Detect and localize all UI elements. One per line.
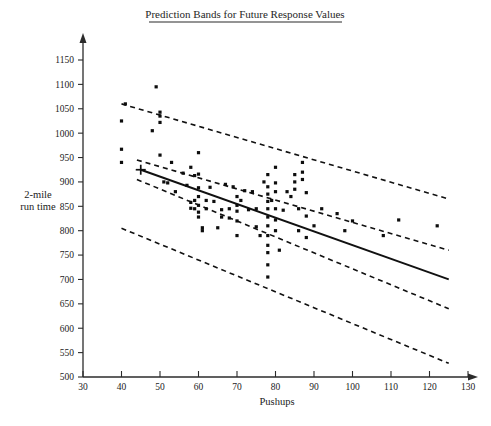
y-axis-title-line2: run time — [20, 201, 56, 212]
y-tick-label: 1050 — [55, 104, 74, 114]
data-point — [232, 185, 235, 188]
data-point — [193, 174, 196, 177]
data-point — [301, 161, 304, 164]
data-point — [305, 236, 308, 239]
lower-prediction-band — [122, 228, 449, 363]
regression-line-group — [136, 165, 449, 280]
data-point — [174, 190, 177, 193]
data-point — [193, 207, 196, 210]
data-point — [320, 207, 323, 210]
x-tick-label: 30 — [78, 382, 88, 392]
data-point — [247, 208, 250, 211]
data-point — [266, 263, 269, 266]
lower-confidence-band — [137, 179, 449, 308]
data-point — [282, 209, 285, 212]
data-point — [289, 195, 292, 198]
data-point — [220, 208, 223, 211]
data-point — [297, 207, 300, 210]
data-point — [201, 229, 204, 232]
data-point — [274, 229, 277, 232]
x-axis-arrowhead — [468, 374, 478, 381]
data-point — [266, 244, 269, 247]
x-tick-label: 60 — [194, 382, 204, 392]
data-point — [166, 181, 169, 184]
data-point — [251, 190, 254, 193]
data-point — [239, 199, 242, 202]
data-point — [158, 114, 161, 117]
x-axis-title: Pushups — [259, 396, 294, 407]
data-point — [397, 218, 400, 221]
data-point — [197, 186, 200, 189]
data-point — [293, 180, 296, 183]
data-point — [259, 234, 262, 237]
data-point — [436, 224, 439, 227]
data-point — [274, 218, 277, 221]
data-point — [235, 195, 238, 198]
data-point — [197, 215, 200, 218]
data-point — [193, 199, 196, 202]
x-tick-label: 40 — [117, 382, 127, 392]
data-point — [124, 102, 127, 105]
data-point — [189, 166, 192, 169]
data-point — [255, 225, 258, 228]
data-point — [155, 85, 158, 88]
y-tick-label: 800 — [60, 226, 75, 236]
data-point — [274, 181, 277, 184]
data-point — [158, 121, 161, 124]
x-tick-label: 130 — [461, 382, 476, 392]
data-point — [336, 212, 339, 215]
data-point — [235, 204, 238, 207]
x-axis-ticks: 30405060708090100110120130 — [78, 371, 475, 392]
data-point — [274, 190, 277, 193]
data-point — [162, 180, 165, 183]
data-point — [266, 207, 269, 210]
data-point — [270, 199, 273, 202]
data-point — [120, 148, 123, 151]
data-point — [274, 166, 277, 169]
data-point — [197, 195, 200, 198]
y-tick-label: 1100 — [55, 80, 74, 90]
data-point — [208, 186, 211, 189]
data-point — [158, 111, 161, 114]
data-point — [351, 219, 354, 222]
data-point — [197, 151, 200, 154]
data-point — [297, 229, 300, 232]
data-point — [266, 200, 269, 203]
x-tick-label: 50 — [155, 382, 165, 392]
data-point — [197, 173, 200, 176]
y-axis-ticks: 5005506006507007508008509009501000105011… — [55, 55, 83, 382]
data-point — [382, 234, 385, 237]
x-tick-label: 110 — [384, 382, 398, 392]
y-tick-label: 950 — [60, 153, 75, 163]
data-point — [189, 201, 192, 204]
y-tick-label: 550 — [60, 348, 75, 358]
prediction-bands-scatter-chart: Prediction Bands for Future Response Val… — [0, 0, 491, 426]
data-point — [185, 184, 188, 187]
data-point — [182, 172, 185, 175]
data-point — [170, 161, 173, 164]
data-point — [266, 234, 269, 237]
data-point — [266, 275, 269, 278]
upper-prediction-band — [122, 104, 449, 199]
data-point — [305, 214, 308, 217]
data-point — [205, 199, 208, 202]
data-point — [262, 180, 265, 183]
data-point — [305, 191, 308, 194]
x-tick-label: 80 — [271, 382, 281, 392]
data-point — [189, 207, 192, 210]
data-point — [228, 216, 231, 219]
data-point — [285, 190, 288, 193]
data-point — [120, 161, 123, 164]
data-point — [205, 207, 208, 210]
y-tick-label: 900 — [60, 177, 75, 187]
data-point — [266, 173, 269, 176]
data-point — [274, 207, 277, 210]
data-point — [235, 219, 238, 222]
y-tick-label: 600 — [60, 324, 75, 334]
y-axis-arrowhead — [80, 33, 87, 43]
y-tick-label: 1150 — [55, 55, 74, 65]
chart-title: Prediction Bands for Future Response Val… — [145, 8, 344, 20]
data-point — [224, 183, 227, 186]
x-tick-label: 90 — [309, 382, 319, 392]
data-point — [197, 204, 200, 207]
